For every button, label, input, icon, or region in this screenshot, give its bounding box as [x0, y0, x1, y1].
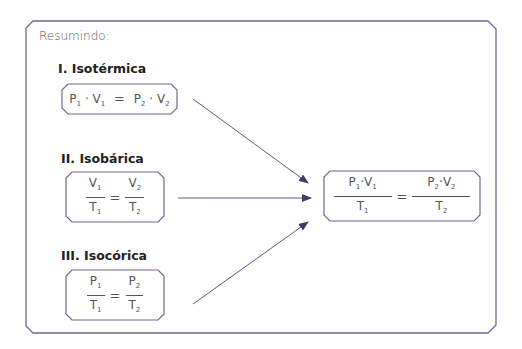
- combined-formula: P1·V1T1 = P2·V2T2: [324, 171, 480, 221]
- isotermica-formula: P1 · V1 = P2 · V2: [62, 84, 177, 114]
- isocorica-label: III. Isocórica: [61, 248, 147, 263]
- isocorica-formula: P1T1 = P2T2: [66, 270, 164, 320]
- isotermica-label: I. Isotérmica: [58, 61, 146, 76]
- arrow-isocorica: [193, 222, 308, 304]
- arrow-isotermica: [193, 99, 308, 183]
- title: Resumindo:: [39, 29, 110, 43]
- isobarica-formula: V1T1 = V2T2: [66, 172, 164, 222]
- isobarica-label: II. Isobárica: [61, 151, 144, 166]
